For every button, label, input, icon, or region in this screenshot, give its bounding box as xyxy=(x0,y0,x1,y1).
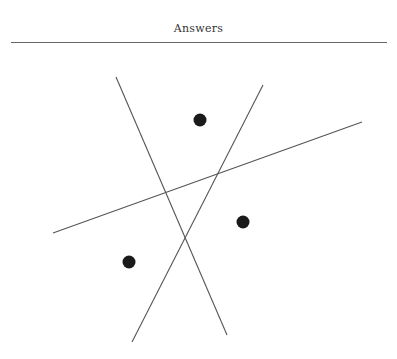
point-1 xyxy=(194,114,207,127)
line-3 xyxy=(53,122,362,233)
line-1 xyxy=(116,77,227,335)
point-2 xyxy=(237,216,250,229)
diagram-canvas xyxy=(0,0,397,359)
dividing-lines xyxy=(53,77,362,342)
point-3 xyxy=(123,256,136,269)
